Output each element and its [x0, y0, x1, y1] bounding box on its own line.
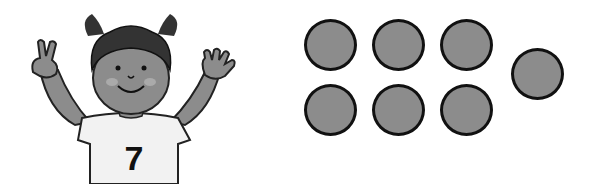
counting-dot: [372, 19, 425, 71]
counting-dot: [372, 84, 425, 136]
counting-dot: [511, 48, 564, 100]
counting-dot: [304, 19, 357, 71]
counting-dot: [304, 84, 357, 136]
counting-dot: [440, 19, 493, 71]
shirt-number: 7: [125, 139, 144, 177]
counting-dot: [440, 84, 493, 136]
girl-illustration: 7: [0, 0, 260, 184]
